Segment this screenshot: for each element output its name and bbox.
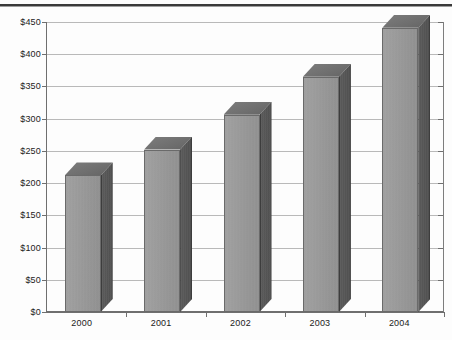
y-axis-tick-right [438,215,443,216]
bar-side-face [180,137,192,312]
y-axis-tick [42,183,47,184]
y-axis-tick-right [438,312,443,313]
x-axis-tick [285,312,286,317]
bar-side-face [260,102,272,312]
bar-side-face [418,15,430,312]
y-axis-tick-right [438,280,443,281]
x-axis-label-2001: 2001 [151,318,172,328]
y-axis-tick-right [438,183,443,184]
y-axis-tick [42,54,47,55]
y-axis-tick-right [438,248,443,249]
y-axis-tick-label: $200 [20,178,41,188]
y-axis-tick [42,215,47,216]
y-axis-tick [42,248,47,249]
y-axis-tick-label: $100 [20,243,41,253]
bar-2000 [65,162,113,312]
y-axis-tick-label: $400 [20,49,41,59]
gridline [47,312,444,313]
bar-2004 [382,15,430,312]
x-axis-label-2004: 2004 [389,318,410,328]
bar-2002 [224,102,272,312]
plot-area [46,22,443,312]
y-axis-tick-label: $0 [31,307,41,317]
x-axis-tick [365,312,366,317]
y-axis-tick-label: $350 [20,81,41,91]
y-axis-tick-label: $250 [20,146,41,156]
bar-chart-figure: $0$50$100$150$200$250$300$350$400$450 20… [0,0,452,340]
x-axis-tick [206,312,207,317]
bar-front-face [303,77,339,312]
x-axis-label-2002: 2002 [230,318,251,328]
y-axis-tick-right [438,119,443,120]
y-axis-tick-right [438,86,443,87]
y-axis-tick-right [438,54,443,55]
bar-front-face [224,115,260,312]
y-axis-tick [42,119,47,120]
bar-side-face [339,64,351,312]
x-axis-label-2000: 2000 [71,318,92,328]
top-divider-rule-hairline [0,6,452,7]
y-axis-tick [42,312,47,313]
y-axis-tick-right [438,151,443,152]
y-axis-tick-label: $300 [20,114,41,124]
bar-2001 [144,137,192,312]
y-axis-tick-label: $150 [20,210,41,220]
y-axis-tick-right [438,22,443,23]
y-axis-tick [42,151,47,152]
x-axis-tick [126,312,127,317]
bar-front-face [144,150,180,312]
y-axis-tick [42,22,47,23]
x-axis-tick [444,312,445,317]
x-axis-label-2003: 2003 [309,318,330,328]
plot-right-frame [443,22,444,312]
y-axis-tick [42,280,47,281]
bar-2003 [303,64,351,312]
bar-side-face [101,162,113,312]
y-axis-tick-label: $450 [20,17,41,27]
bar-front-face [382,28,418,312]
bar-front-face [65,175,101,312]
y-axis-tick-label: $50 [25,275,41,285]
y-axis-tick [42,86,47,87]
